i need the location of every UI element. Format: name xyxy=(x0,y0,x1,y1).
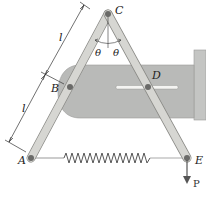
load-label: P xyxy=(193,178,200,189)
label-E: E xyxy=(194,154,203,167)
theta-right: θ xyxy=(113,47,119,58)
mechanism-diagram: l l θ θ P C B D A E xyxy=(0,0,206,200)
pin-C xyxy=(105,11,111,17)
label-D: D xyxy=(151,69,161,82)
pin-A xyxy=(28,155,34,161)
theta-left: θ xyxy=(95,47,101,58)
label-C: C xyxy=(115,4,124,17)
dim-label-upper: l xyxy=(59,31,63,44)
load-arrow xyxy=(183,160,191,184)
dim-label-lower: l xyxy=(22,102,26,115)
label-B: B xyxy=(50,82,59,95)
label-A: A xyxy=(17,154,26,167)
pin-B xyxy=(67,84,73,90)
wall-support xyxy=(194,50,206,120)
pin-D xyxy=(145,84,151,90)
spring xyxy=(33,153,185,163)
